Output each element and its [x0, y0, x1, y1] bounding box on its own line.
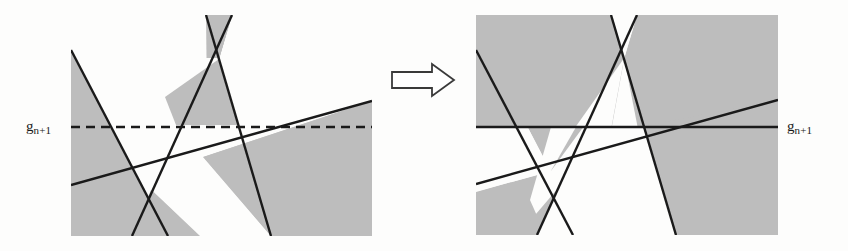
right-level-label-subscript: n+1	[795, 124, 813, 136]
transform-arrow-icon	[392, 64, 454, 96]
geometry-illustration	[0, 0, 848, 251]
left-figure-group	[71, 15, 372, 236]
right-figure-group	[476, 15, 778, 235]
transform-arrow-group	[392, 64, 454, 96]
left-level-label: gn+1	[26, 118, 51, 136]
right-level-label: gn+1	[787, 118, 812, 136]
right-level-label-base: g	[787, 118, 795, 134]
left-shade-accurate	[71, 15, 372, 236]
left-level-label-subscript: n+1	[34, 124, 52, 136]
left-right-descending-line	[206, 15, 271, 236]
left-level-label-base: g	[26, 118, 34, 134]
figure-canvas: gn+1 gn+1	[0, 0, 848, 251]
